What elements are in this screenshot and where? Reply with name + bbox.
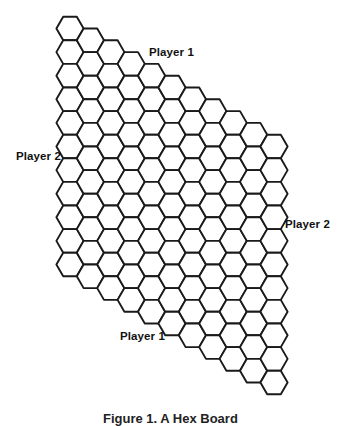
hex-cell[interactable] (260, 276, 287, 300)
hex-cell[interactable] (260, 182, 287, 206)
hex-cell[interactable] (260, 135, 287, 159)
player-2-label-right: Player 2 (285, 218, 330, 230)
hex-cell[interactable] (260, 347, 287, 371)
figure-caption: Figure 1. A Hex Board (103, 411, 238, 426)
player-1-label-top: Player 1 (149, 46, 194, 58)
hex-cell[interactable] (260, 253, 287, 277)
hex-cell[interactable] (260, 324, 287, 348)
hex-cell[interactable] (260, 206, 287, 230)
hex-cell[interactable] (260, 229, 287, 253)
hex-cell[interactable] (260, 158, 287, 182)
player-1-label-bottom: Player 1 (120, 330, 165, 342)
hex-cell[interactable] (260, 300, 287, 324)
hex-cell[interactable] (260, 371, 287, 395)
player-2-label-left: Player 2 (16, 150, 61, 162)
